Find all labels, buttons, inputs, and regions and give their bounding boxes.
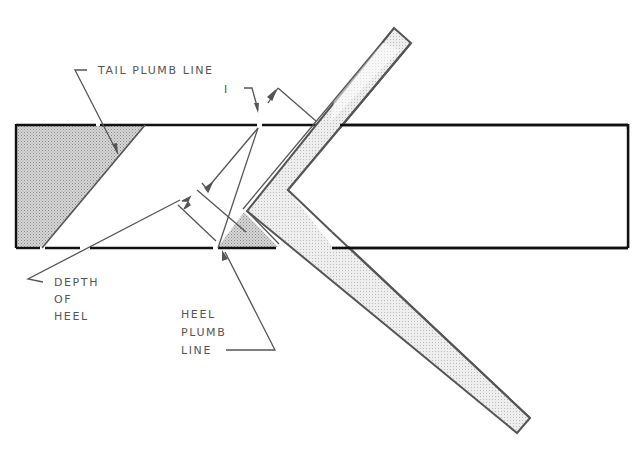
heel-plumb-leader <box>225 252 275 350</box>
label-depth-of-heel-line3: HEEL <box>54 310 89 323</box>
framing-square <box>243 28 628 433</box>
label-heel-plumb-line1: HEEL <box>181 308 216 321</box>
label-heel-plumb-line2: PLUMB <box>181 326 226 339</box>
label-dimension-one: I <box>224 83 229 96</box>
diagram-canvas: TAIL PLUMB LINE I DEPTH OF HEEL HEEL PLU… <box>0 0 634 457</box>
label-heel-plumb-line3: LINE <box>181 344 212 357</box>
label-tail-plumb-line: TAIL PLUMB LINE <box>97 64 214 77</box>
dimension-one-arrowhead <box>254 103 259 113</box>
framing-square-interior <box>288 129 628 246</box>
label-depth-of-heel-line1: DEPTH <box>54 276 99 289</box>
label-depth-of-heel-line2: OF <box>54 293 72 306</box>
framing-square-blade-clear <box>330 42 400 122</box>
